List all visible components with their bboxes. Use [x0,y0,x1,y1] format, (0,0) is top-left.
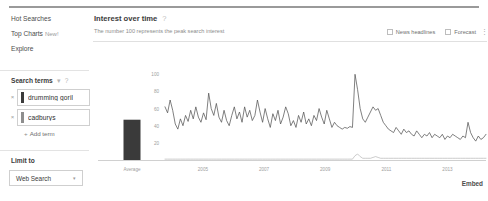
sidebar-item-hot-searches[interactable]: Hot Searches [0,14,90,29]
chevron-down-icon: ▾ [73,175,82,181]
sidebar-item-label: Explore [11,45,33,52]
toggle-news-headlines[interactable]: News headlines [387,29,436,35]
sidebar-item-top-charts[interactable]: Top ChartsNew! [0,29,90,44]
help-icon[interactable]: ? [162,14,167,23]
sidebar-divider [0,70,89,71]
y-axis-tick-label: 40 [154,124,160,129]
more-options-icon[interactable]: ⋮ [481,29,486,35]
checkbox-icon[interactable] [445,29,451,35]
search-term-row: × drumming goril [8,89,90,106]
x-axis-tick-label: 2007 [259,167,270,172]
x-axis-tick-label: 2009 [320,167,331,172]
chart-toggles: News headlines Forecast ⋮ [377,29,486,35]
toggle-forecast[interactable]: Forecast [445,29,476,35]
y-axis-tick-label: 60 [154,107,160,112]
embed-button[interactable]: Embed [462,180,483,187]
search-terms-heading: Search terms▾ ? [11,77,69,85]
y-axis-tick-label: 100 [151,72,159,77]
term-color-swatch [21,92,24,103]
limit-to-select[interactable]: Web Search ▾ [9,170,83,186]
page-title-label: Interest over time [94,14,157,23]
page-title: Interest over time? [94,14,168,23]
toggle-label: Forecast [454,29,476,35]
chart-svg: 20406080100Average20052007200920112013 [90,48,488,180]
average-bar[interactable] [124,120,141,160]
search-terms-heading-label: Search terms [11,77,53,84]
limit-to-value: Web Search [10,175,73,182]
add-term-button[interactable]: +Add term [24,129,90,139]
sidebar-item-explore[interactable]: Explore [0,44,90,59]
average-bar-label: Average [123,167,140,172]
sidebar-divider-2 [0,150,89,151]
trends-page: Hot Searches Top ChartsNew! Explore Sear… [0,0,488,201]
sidebar-item-label: Hot Searches [11,15,51,22]
term-label: drumming goril [28,94,73,101]
limit-to-heading: Limit to [11,157,35,164]
y-axis-tick-label: 80 [154,89,160,94]
sidebar-item-label: Top Charts [11,30,43,37]
chart-series-line [165,154,486,159]
term-label: cadburys [28,114,56,121]
toggle-label: News headlines [396,29,436,35]
sidebar: Hot Searches Top ChartsNew! Explore [0,14,90,59]
plus-icon: + [24,130,28,137]
panel-divider [93,41,487,42]
search-term-input-1[interactable]: drumming goril [17,89,90,106]
search-terms-help-icon[interactable]: ▾ ? [57,77,70,84]
checkbox-icon[interactable] [387,29,393,35]
interest-over-time-chart[interactable]: 20406080100Average20052007200920112013 [90,48,488,180]
new-badge: New! [45,31,59,37]
term-color-swatch [21,112,24,123]
y-axis-tick-label: 20 [154,141,160,146]
main-panel: Interest over time? The number 100 repre… [90,12,488,201]
x-axis-tick-label: 2013 [442,167,453,172]
add-term-label: Add term [30,130,55,137]
x-axis-tick-label: 2011 [381,167,391,172]
search-term-input-2[interactable]: cadburys [17,109,90,126]
top-divider [9,6,479,8]
x-axis-tick-label: 2005 [198,167,209,172]
remove-term-icon[interactable]: × [8,89,17,106]
panel-subtitle: The number 100 represents the peak searc… [94,28,224,34]
chart-series-line [165,74,486,141]
remove-term-icon[interactable]: × [8,109,17,126]
search-terms-list: × drumming goril × cadburys +Add term [8,89,90,139]
search-term-row: × cadburys [8,109,90,126]
